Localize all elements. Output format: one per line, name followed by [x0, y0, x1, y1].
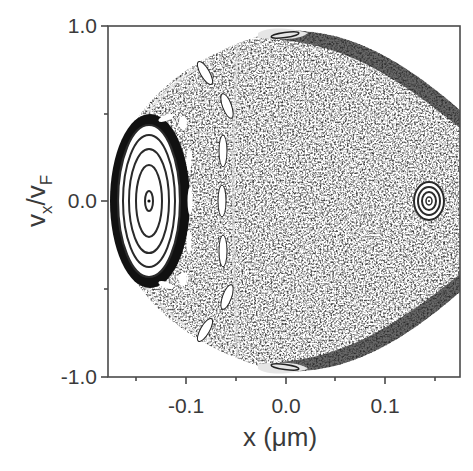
x-tick-label-right: 0.1 — [370, 394, 399, 417]
y-tick-label-top: 1.0 — [68, 14, 97, 37]
x-tick-label-mid: 0.0 — [271, 394, 300, 417]
plot-area — [100, 20, 470, 385]
x-axis — [136, 377, 435, 384]
y-axis-label: vx/vF — [21, 175, 56, 227]
phase-space-chart: 1.0 0.0 -1.0 -0.1 0.0 0.1 x (μm) vx/vF — [0, 0, 473, 471]
x-tick-label-left: -0.1 — [168, 394, 204, 417]
y-tick-label-mid: 0.0 — [68, 189, 97, 212]
y-tick-label-bottom: -1.0 — [61, 365, 97, 388]
right-regular-island — [413, 181, 445, 221]
y-axis — [101, 26, 108, 377]
x-axis-label: x (μm) — [243, 422, 317, 452]
